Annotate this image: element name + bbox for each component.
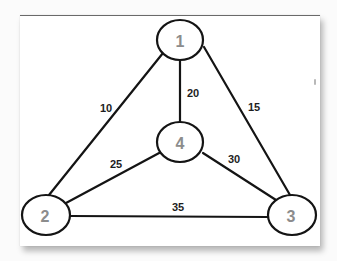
edge-weight-4-3: 30	[228, 153, 240, 165]
node-3-label: 3	[287, 208, 296, 225]
edge-1-2	[49, 53, 163, 195]
edge-2-3	[70, 216, 268, 217]
node-4-label: 4	[176, 135, 185, 152]
edge-weight-1-4: 20	[187, 87, 199, 99]
node-2: 2	[22, 195, 70, 235]
node-4: 4	[157, 122, 203, 162]
edge-1-3	[204, 47, 290, 195]
edge-weight-1-3: 15	[248, 101, 260, 113]
node-1-label: 1	[176, 33, 185, 50]
edge-weight-2-4: 25	[110, 158, 122, 170]
node-2-label: 2	[41, 208, 50, 225]
node-3: 3	[268, 195, 316, 235]
figure-stage: 10 20 15 25 30 35 1 4 2 3	[0, 0, 337, 261]
node-1: 1	[157, 20, 203, 60]
graph-diagram: 10 20 15 25 30 35 1 4 2 3	[0, 0, 337, 261]
edge-weight-2-3: 35	[172, 201, 184, 213]
edge-weight-1-2: 10	[100, 102, 112, 114]
